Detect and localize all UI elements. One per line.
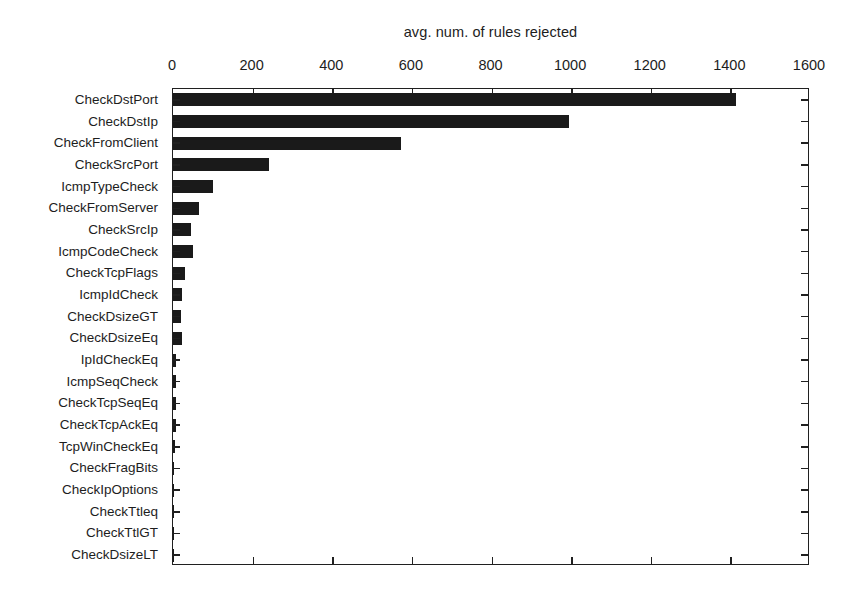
y-axis-tick-mark (173, 403, 180, 405)
y-axis-category-label: IcmpSeqCheck (0, 373, 166, 388)
y-axis-category-label: CheckFromClient (0, 135, 166, 150)
y-axis-tick-mark (173, 164, 180, 166)
y-axis-tick-mark (801, 338, 808, 340)
y-axis-tick-mark (801, 403, 808, 405)
y-axis-tick-mark (173, 273, 180, 275)
x-axis-tick-mark (412, 557, 414, 564)
bar (173, 137, 401, 150)
y-axis-category-label: TcpWinCheckEq (0, 438, 166, 453)
y-axis-tick-mark (173, 359, 180, 361)
y-axis-category-label: CheckTtlGT (0, 525, 166, 540)
y-axis-tick-mark (801, 533, 808, 535)
y-axis-tick-mark (173, 121, 180, 123)
y-axis-tick-mark (173, 294, 180, 296)
x-axis-tick-label: 800 (478, 57, 502, 73)
x-axis-tick-label: 200 (240, 57, 264, 73)
x-axis-tick-label: 0 (168, 57, 176, 73)
bar-chart: avg. num. of rules rejected 020040060080… (0, 0, 851, 601)
y-axis-category-label: CheckDstIp (0, 113, 166, 128)
bar (173, 115, 569, 128)
y-axis-tick-mark (801, 229, 808, 231)
y-axis-tick-mark (173, 316, 180, 318)
y-axis-tick-mark (173, 468, 180, 470)
x-axis-tick-label: 1000 (554, 57, 586, 73)
y-axis-tick-mark (173, 489, 180, 491)
y-axis-tick-mark (801, 121, 808, 123)
y-axis-tick-mark (801, 208, 808, 210)
y-axis-tick-mark (801, 316, 808, 318)
y-axis-category-label: IcmpTypeCheck (0, 178, 166, 193)
bar (173, 93, 736, 106)
y-axis-tick-mark (173, 511, 180, 513)
y-axis-category-label: CheckFromServer (0, 200, 166, 215)
y-axis-category-label: CheckDsizeLT (0, 547, 166, 562)
y-axis-tick-mark (801, 381, 808, 383)
x-axis-tick-mark (651, 557, 653, 564)
x-axis-tick-mark (332, 557, 334, 564)
y-axis-tick-mark (173, 533, 180, 535)
x-axis-tick-label: 600 (399, 57, 423, 73)
y-axis-tick-mark (173, 208, 180, 210)
x-axis-tick-label: 1600 (793, 57, 825, 73)
y-axis-tick-mark (173, 186, 180, 188)
y-axis-tick-mark (801, 489, 808, 491)
y-axis-category-label: CheckFragBits (0, 460, 166, 475)
plot-area (172, 88, 809, 565)
y-axis-tick-mark (173, 229, 180, 231)
y-axis-category-label: CheckIpOptions (0, 482, 166, 497)
y-axis-category-label: CheckDsizeGT (0, 308, 166, 323)
y-axis-tick-mark (173, 99, 180, 101)
y-axis-tick-mark (801, 446, 808, 448)
y-axis-tick-mark (801, 251, 808, 253)
y-axis-category-label: CheckTcpAckEq (0, 417, 166, 432)
x-axis-tick-label: 400 (319, 57, 343, 73)
y-axis-tick-mark (801, 164, 808, 166)
y-axis-category-label: CheckDsizeEq (0, 330, 166, 345)
y-axis-tick-mark (173, 446, 180, 448)
y-axis-tick-mark (801, 186, 808, 188)
y-axis-category-labels: CheckDstPortCheckDstIpCheckFromClientChe… (0, 88, 166, 565)
y-axis-tick-mark (173, 338, 180, 340)
y-axis-tick-mark (173, 251, 180, 253)
x-axis-tick-mark (730, 557, 732, 564)
y-axis-category-label: CheckDstPort (0, 91, 166, 106)
x-axis-tick-mark (253, 557, 255, 564)
y-axis-tick-mark (801, 294, 808, 296)
y-axis-category-label: CheckTcpSeqEq (0, 395, 166, 410)
y-axis-category-label: CheckSrcIp (0, 221, 166, 236)
y-axis-tick-mark (801, 142, 808, 144)
y-axis-tick-mark (173, 142, 180, 144)
x-axis-tick-mark (492, 557, 494, 564)
y-axis-category-label: CheckTtleq (0, 503, 166, 518)
y-axis-category-label: CheckSrcPort (0, 156, 166, 171)
y-axis-category-label: IcmpCodeCheck (0, 243, 166, 258)
y-axis-tick-mark (801, 511, 808, 513)
chart-title: avg. num. of rules rejected (172, 24, 809, 40)
y-axis-tick-mark (801, 424, 808, 426)
y-axis-tick-mark (173, 424, 180, 426)
x-axis-tick-label: 1200 (634, 57, 666, 73)
y-axis-tick-mark (801, 359, 808, 361)
bar (173, 158, 269, 171)
y-axis-tick-mark (173, 381, 180, 383)
y-axis-category-label: IcmpIdCheck (0, 286, 166, 301)
x-axis-tick-labels: 02004006008001000120014001600 (0, 57, 851, 77)
y-axis-category-label: CheckTcpFlags (0, 265, 166, 280)
y-axis-category-label: IpIdCheckEq (0, 352, 166, 367)
y-axis-tick-mark (801, 554, 808, 556)
x-axis-tick-label: 1400 (713, 57, 745, 73)
y-axis-tick-mark (801, 99, 808, 101)
y-axis-tick-mark (173, 554, 180, 556)
y-axis-tick-mark (801, 273, 808, 275)
x-axis-tick-mark (571, 557, 573, 564)
y-axis-tick-mark (801, 468, 808, 470)
